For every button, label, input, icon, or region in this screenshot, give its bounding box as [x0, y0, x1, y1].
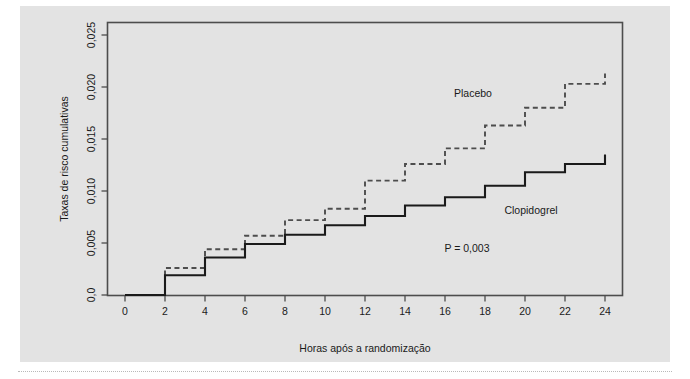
- y-tick-label: 0,020: [85, 74, 97, 100]
- x-tick-label: 20: [519, 305, 531, 317]
- series-path-clopidogrel: [125, 155, 605, 295]
- p-value-label: P = 0,003: [444, 242, 489, 254]
- x-tick-label: 2: [162, 305, 168, 317]
- bottom-separator: [18, 371, 672, 372]
- clopidogrel-series-label: Clopidogrel: [504, 204, 557, 216]
- x-tick-label: 0: [122, 305, 128, 317]
- y-tick-label: 0,010: [85, 178, 97, 204]
- x-tick-label: 22: [559, 305, 571, 317]
- y-axis-ticks: 0,00,0050,0100,0150,0200,025: [85, 22, 108, 303]
- series-layer: [125, 73, 605, 295]
- x-tick-label: 24: [599, 305, 611, 317]
- x-tick-label: 10: [319, 305, 331, 317]
- figure-root: 024681012141618202224 0,00,0050,0100,015…: [0, 0, 690, 379]
- y-axis-title: Taxas de risco cumulativas: [58, 96, 70, 221]
- x-tick-label: 8: [282, 305, 288, 317]
- x-tick-label: 4: [202, 305, 208, 317]
- series-path-placebo: [125, 73, 605, 295]
- x-tick-label: 16: [439, 305, 451, 317]
- y-tick-label: 0,015: [85, 126, 97, 152]
- placebo-series-label: Placebo: [454, 87, 492, 99]
- x-axis-ticks: 024681012141618202224: [122, 296, 611, 317]
- x-tick-label: 18: [479, 305, 491, 317]
- x-axis-title: Horas após a randomização: [299, 342, 430, 354]
- plot-frame: [108, 23, 623, 296]
- y-tick-label: 0,0: [85, 288, 97, 303]
- y-tick-label: 0,005: [85, 230, 97, 256]
- x-tick-label: 14: [399, 305, 411, 317]
- cumulative-hazard-chart: 024681012141618202224 0,00,0050,0100,015…: [0, 0, 690, 379]
- x-tick-label: 12: [359, 305, 371, 317]
- x-tick-label: 6: [242, 305, 248, 317]
- y-tick-label: 0,025: [85, 22, 97, 48]
